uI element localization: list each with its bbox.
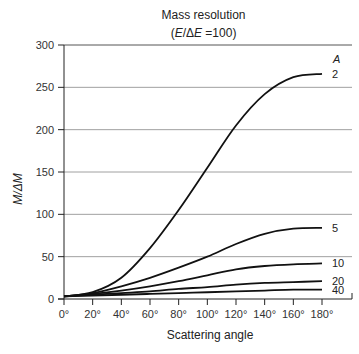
series-label-A40: 40 [332,284,344,296]
y-tick-label: 0 [48,293,54,305]
x-tick-label: 100° [196,308,219,320]
x-axis-label: Scattering angle [150,328,270,342]
y-tick-label: 250 [36,81,54,93]
y-axis-label: M/ΔM [11,159,25,219]
x-tick-label: 40° [113,308,130,320]
y-tick-label: 200 [36,124,54,136]
x-tick-label: 0° [59,308,70,320]
x-tick-label: 160° [282,308,305,320]
y-tick-label: 50 [42,251,54,263]
series-label-A5: 5 [332,222,338,234]
x-tick-label: 80° [170,308,187,320]
y-tick-label: 150 [36,166,54,178]
series-label-A2: 2 [332,68,338,80]
y-tick-label: 100 [36,208,54,220]
x-tick-label: 120° [225,308,248,320]
legend-title: A [332,53,340,65]
y-tick-label: 300 [36,39,54,51]
x-tick-label: 140° [253,308,276,320]
series-label-A10: 10 [332,257,344,269]
x-tick-label: 180° [311,308,334,320]
plot-area: 0501001502002503000°20°40°60°80°100°120°… [0,0,359,354]
series-line-A5 [64,228,322,297]
x-tick-label: 20° [84,308,101,320]
x-tick-label: 60° [142,308,159,320]
